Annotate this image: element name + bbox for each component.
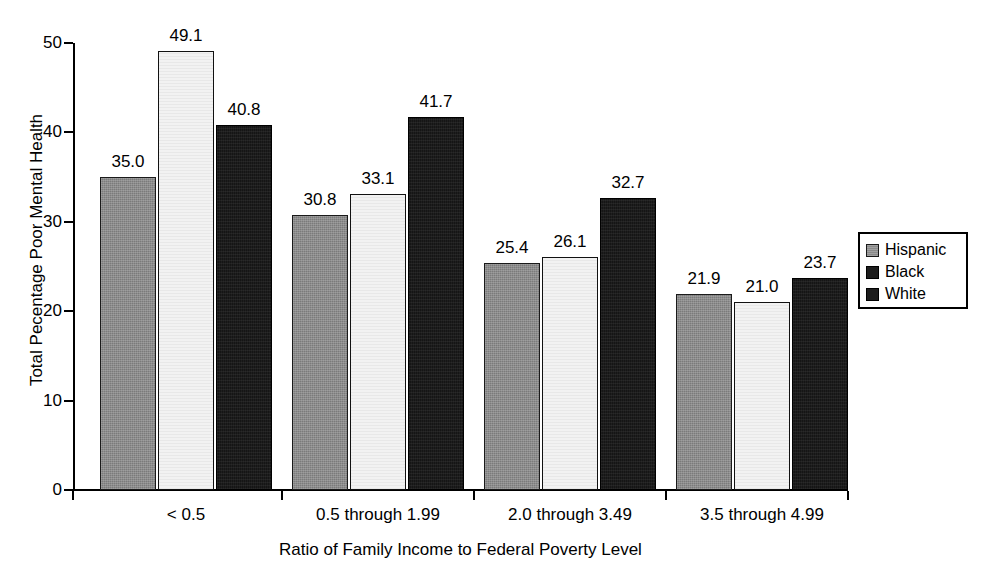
bar-hispanic-group-1 [100,177,156,490]
y-axis-tick-label-text: 30 [4,213,62,230]
bar-hispanic-group-2 [292,215,348,490]
bar-white-group-1 [216,125,272,490]
bar-white-group-4 [792,278,848,490]
bar-value-label: 23.7 [786,254,854,271]
legend-swatch-icon [866,288,879,301]
legend-item-white: White [866,283,966,305]
legend-item-label: Hispanic [885,242,946,258]
legend-swatch-icon [866,244,879,257]
y-axis-tick-label-text: 0 [4,481,62,498]
legend-item-hispanic: Hispanic [866,239,966,261]
bar-white-group-2 [408,117,464,490]
bar-value-label: 21.0 [728,278,796,295]
legend-item-black: Black [866,261,966,283]
x-axis-tick-mark [281,491,283,500]
x-axis-category-label: 0.5 through 1.99 [268,505,488,525]
y-axis-tick-label: 50 [0,34,62,51]
y-axis-tick-label: 0 [0,481,62,498]
bar-value-label: 32.7 [594,174,662,191]
bar-black-group-1 [158,51,214,490]
y-axis-tick-mark [64,310,73,312]
y-axis-tick-label-text: 10 [4,392,62,409]
legend-item-label: Black [885,264,924,280]
y-axis-title: Total Pecentage Poor Mental Health [24,0,50,500]
bar-black-group-2 [350,194,406,490]
y-axis-tick-label: 30 [0,213,62,230]
bar-hispanic-group-3 [484,263,540,490]
y-axis-tick-mark [64,221,73,223]
bar-value-label: 30.8 [286,191,354,208]
legend: HispanicBlackWhite [858,232,968,309]
x-axis-tick-mark [847,491,849,500]
bar-black-group-4 [734,302,790,490]
bar-value-label: 33.1 [344,170,412,187]
y-axis-tick-mark [64,131,73,133]
bar-value-label: 41.7 [402,93,470,110]
bar-white-group-3 [600,198,656,490]
legend-item-label: White [885,286,926,302]
bar-value-label: 26.1 [536,233,604,250]
bar-hispanic-group-4 [676,294,732,490]
bar-value-label: 49.1 [152,27,220,44]
y-axis-tick-label-text: 20 [4,302,62,319]
y-axis-tick-mark [64,400,73,402]
x-axis-tick-mark [72,491,74,500]
y-axis-tick-label: 20 [0,302,62,319]
y-axis-tick-mark [64,42,73,44]
y-axis-tick-label: 10 [0,392,62,409]
y-axis-tick-label-text: 40 [4,123,62,140]
x-axis-category-label: 3.5 through 4.99 [652,505,872,525]
bar-black-group-3 [542,257,598,490]
y-axis-line [73,43,75,491]
x-axis-tick-mark [473,491,475,500]
y-axis-tick-label: 40 [0,123,62,140]
y-axis-tick-label-text: 50 [4,34,62,51]
legend-swatch-icon [866,266,879,279]
x-axis-tick-mark [665,491,667,500]
bar-value-label: 35.0 [94,153,162,170]
bar-chart-figure: Total Pecentage Poor Mental Health 01020… [0,0,995,570]
x-axis-category-label: < 0.5 [76,505,296,525]
bar-value-label: 40.8 [210,101,278,118]
x-axis-category-label: 2.0 through 3.49 [460,505,680,525]
x-axis-title: Ratio of Family Income to Federal Povert… [73,540,848,560]
